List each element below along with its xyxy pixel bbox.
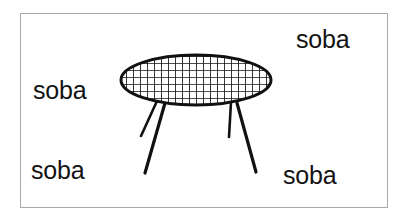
image-canvas: soba soba soba soba: [0, 0, 404, 221]
label-soba-mid-left: soba: [33, 78, 86, 103]
label-soba-bottom-left: soba: [31, 158, 84, 183]
label-soba-top-right: soba: [296, 27, 349, 52]
label-soba-bottom-right: soba: [283, 163, 336, 188]
